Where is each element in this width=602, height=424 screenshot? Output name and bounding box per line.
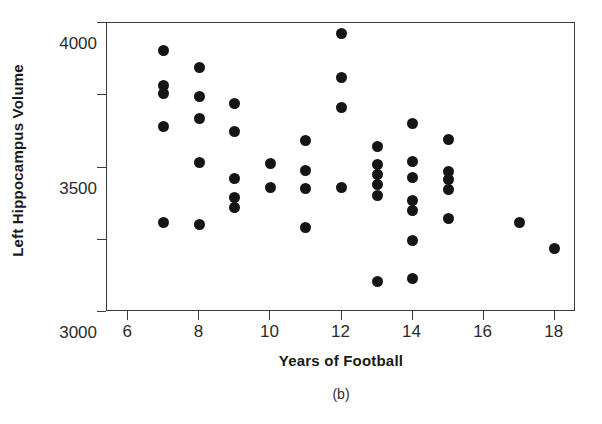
data-point <box>229 202 240 213</box>
x-axis-tick-label: 16 <box>460 322 506 342</box>
x-axis-tick-mark <box>341 311 342 320</box>
x-axis-tick-mark <box>483 311 484 320</box>
data-point <box>158 88 169 99</box>
data-point <box>265 182 276 193</box>
data-point <box>300 165 311 176</box>
y-axis-tick-mark <box>97 239 106 240</box>
data-point <box>407 205 418 216</box>
x-axis-tick-label: 6 <box>104 322 150 342</box>
data-point <box>549 243 560 254</box>
data-point <box>158 45 169 56</box>
x-axis-tick-label: 14 <box>389 322 435 342</box>
data-point <box>300 222 311 233</box>
data-point <box>443 174 454 185</box>
data-point <box>194 62 205 73</box>
data-point <box>372 179 383 190</box>
x-axis-label: Years of Football <box>106 352 576 369</box>
plot-frame <box>106 22 575 311</box>
data-point <box>407 195 418 206</box>
data-point <box>300 135 311 146</box>
data-point <box>158 121 169 132</box>
data-point <box>407 235 418 246</box>
x-axis-tick-mark <box>127 311 128 320</box>
data-point <box>336 72 347 83</box>
data-point <box>229 173 240 184</box>
data-point <box>158 217 169 228</box>
data-point <box>443 184 454 195</box>
data-point <box>194 91 205 102</box>
plot-area <box>107 23 574 310</box>
data-point <box>194 219 205 230</box>
y-axis-tick-label: 4000 <box>35 34 97 54</box>
y-axis-label-text: Left Hippocampus Volume <box>9 64 26 257</box>
data-point <box>336 102 347 113</box>
x-axis-tick-mark <box>412 311 413 320</box>
scatter-plot-figure: Left Hippocampus Volume 2000250030003500… <box>0 0 602 424</box>
data-point <box>265 158 276 169</box>
x-axis-tick-label: 10 <box>246 322 292 342</box>
data-point <box>407 172 418 183</box>
data-point <box>407 118 418 129</box>
y-axis-tick-mark <box>97 22 106 23</box>
figure-caption: (b) <box>106 386 576 402</box>
data-point <box>300 183 311 194</box>
data-point <box>443 213 454 224</box>
data-point <box>229 98 240 109</box>
x-axis-tick-label: 12 <box>318 322 364 342</box>
data-point <box>372 190 383 201</box>
data-point <box>407 273 418 284</box>
data-point <box>194 113 205 124</box>
x-axis-tick-label: 8 <box>175 322 221 342</box>
x-axis-tick-mark <box>554 311 555 320</box>
data-point <box>336 182 347 193</box>
x-axis-tick-label: 18 <box>531 322 577 342</box>
x-axis-tick-mark <box>269 311 270 320</box>
y-axis-tick-mark <box>97 311 106 312</box>
x-axis-tick-mark <box>198 311 199 320</box>
data-point <box>372 141 383 152</box>
data-point <box>514 217 525 228</box>
y-axis-tick-label: 3500 <box>35 179 97 199</box>
data-point <box>194 157 205 168</box>
data-point <box>372 276 383 287</box>
data-point <box>407 156 418 167</box>
y-axis-tick-mark <box>97 94 106 95</box>
data-point <box>229 126 240 137</box>
data-point <box>443 134 454 145</box>
y-axis-label: Left Hippocampus Volume <box>0 0 34 320</box>
y-axis-tick-mark <box>97 167 106 168</box>
y-axis-tick-label: 3000 <box>35 323 97 343</box>
data-point <box>372 169 383 180</box>
data-point <box>336 28 347 39</box>
